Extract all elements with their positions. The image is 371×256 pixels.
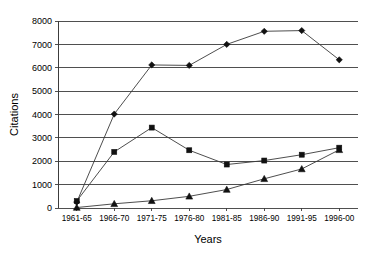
x-tick-label: 1991-95 xyxy=(287,214,317,223)
x-tick-label: 1966-70 xyxy=(99,214,129,223)
y-tick-label: 0 xyxy=(47,203,52,213)
data-point-square xyxy=(262,158,267,163)
y-tick-label: 3000 xyxy=(32,133,52,143)
x-tick-labels: 1961-651966-701971-751976-801981-851986-… xyxy=(62,208,355,223)
gridlines xyxy=(58,21,358,208)
series-line-triangle xyxy=(77,150,340,208)
x-tick-label: 1986-90 xyxy=(249,214,279,223)
data-point-diamond xyxy=(261,28,267,34)
citations-line-chart: 0100020003000400050006000700080001961-65… xyxy=(0,0,371,256)
y-tick-label: 6000 xyxy=(32,63,52,73)
x-tick-label: 1976-80 xyxy=(174,214,204,223)
x-tick-label: 1961-65 xyxy=(62,214,92,223)
series-square xyxy=(74,125,342,203)
y-tick-labels: 010002000300040005000600070008000 xyxy=(32,16,52,213)
y-axis-title: Citations xyxy=(8,93,20,136)
data-point-square xyxy=(112,149,117,154)
y-tick-label: 5000 xyxy=(32,86,52,96)
y-tick-label: 7000 xyxy=(32,40,52,50)
data-point-square xyxy=(187,148,192,153)
data-point-triangle xyxy=(298,166,305,172)
y-tick-label: 8000 xyxy=(32,16,52,26)
series-diamond xyxy=(74,27,343,205)
x-tick-label: 1981-85 xyxy=(212,214,242,223)
data-point-square xyxy=(149,125,154,130)
data-point-diamond xyxy=(224,41,230,47)
x-tick-label: 1971-75 xyxy=(137,214,167,223)
series-line-diamond xyxy=(77,31,340,203)
y-tick-label: 2000 xyxy=(32,156,52,166)
chart-canvas: 0100020003000400050006000700080001961-65… xyxy=(0,0,371,256)
data-point-square xyxy=(224,162,229,167)
x-axis-title: Years xyxy=(194,233,222,245)
data-point-square xyxy=(299,152,304,157)
x-tick-label: 1996-00 xyxy=(324,214,354,223)
y-tick-label: 4000 xyxy=(32,110,52,120)
y-tick-label: 1000 xyxy=(32,180,52,190)
data-point-square xyxy=(74,198,79,203)
series-line-square xyxy=(77,128,340,201)
